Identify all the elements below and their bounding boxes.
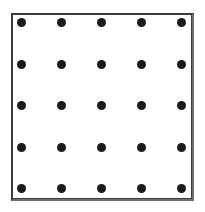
grid-dot <box>137 60 146 69</box>
grid-dot <box>97 143 106 152</box>
grid-dot <box>177 18 186 27</box>
grid-dot <box>57 18 66 27</box>
grid-dot <box>17 18 26 27</box>
grid-dot <box>57 184 66 193</box>
grid-dot <box>137 101 146 110</box>
grid-dot <box>17 60 26 69</box>
grid-dot <box>57 60 66 69</box>
grid-dot <box>97 60 106 69</box>
grid-dot <box>137 143 146 152</box>
grid-dot <box>177 101 186 110</box>
grid-dot <box>17 184 26 193</box>
grid-dot <box>17 101 26 110</box>
figure-canvas <box>0 0 205 212</box>
grid-dot <box>17 143 26 152</box>
grid-dot <box>97 18 106 27</box>
grid-dot <box>177 143 186 152</box>
grid-dot <box>97 101 106 110</box>
grid-dot <box>137 184 146 193</box>
dot-grid <box>0 0 205 212</box>
grid-dot <box>137 18 146 27</box>
grid-dot <box>177 60 186 69</box>
grid-dot <box>57 143 66 152</box>
grid-dot <box>97 184 106 193</box>
grid-dot <box>57 101 66 110</box>
grid-dot <box>177 184 186 193</box>
